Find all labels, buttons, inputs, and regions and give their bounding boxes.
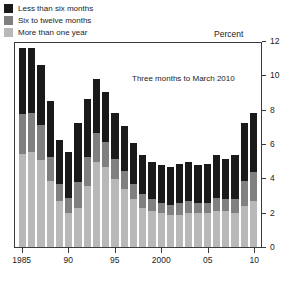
legend-label-six-to-twelve-months: Six to twelve months [18,16,91,25]
bar-segment [121,189,128,247]
bar-2009 [241,43,248,247]
x-tick-label: 10 [250,255,259,265]
bar-segment [102,167,109,247]
y-axis: 024681012 [262,42,300,248]
bar-1995 [111,43,118,247]
bar-segment [185,201,192,213]
bar-segment [84,186,91,247]
bar-1986 [28,43,35,247]
x-tick-mark [115,248,116,253]
bar-segment [111,159,118,179]
bar-segment [56,201,63,247]
x-tick-label: 2000 [152,255,171,265]
bar-segment [139,155,146,194]
bar-segment [204,213,211,247]
bar-1989 [56,43,63,247]
y-tick-mark [262,144,266,145]
chart-legend: Less than six months Six to twelve month… [4,3,174,39]
bar-segment [56,184,63,201]
bar-segment [231,213,238,247]
bar-segment [250,172,257,201]
bar-1993 [93,43,100,247]
bar-segment [84,157,91,186]
bar-1987 [37,43,44,247]
bar-segment [19,48,26,114]
x-tick-mark [68,248,69,253]
y-tick-label: 12 [270,36,279,47]
x-tick-label: 1985 [12,255,31,265]
bar-segment [213,211,220,247]
x-tick-label: 90 [63,255,72,265]
bar-segment [121,126,128,170]
bar-segment [111,113,118,159]
y-tick-label: 4 [270,173,275,184]
legend-swatch-more-than-one-year [4,28,13,37]
bar-segment [56,140,63,184]
y-tick-mark [262,247,266,248]
bar-segment [250,113,257,173]
bar-1988 [47,43,54,247]
y-tick-mark [262,41,266,42]
bar-segment [185,213,192,247]
bar-segment [176,164,183,203]
bar-2010 [250,43,257,247]
y-tick-label: 8 [270,105,275,116]
bar-segment [167,167,174,204]
legend-item-more-than-one-year: More than one year [4,27,174,38]
bar-segment [250,201,257,247]
bar-segment [185,162,192,201]
bar-1994 [102,43,109,247]
bar-segment [241,206,248,247]
x-tick-label: 05 [203,255,212,265]
bar-1992 [84,43,91,247]
y-tick-label: 0 [270,242,275,253]
bar-segment [47,101,54,157]
x-tick-mark [22,248,23,253]
bar-segment [111,179,118,247]
bar-1990 [65,43,72,247]
bar-segment [19,154,26,248]
legend-item-less-than-six-months: Less than six months [4,3,174,14]
y-axis-unit-label: Percent [214,29,243,39]
bar-segment [241,123,248,181]
bar-segment [139,194,146,208]
legend-swatch-six-to-twelve-months [4,16,13,25]
bar-segment [231,155,238,199]
y-tick-mark [262,110,266,111]
bar-segment [74,123,81,183]
y-tick-label: 2 [270,208,275,219]
bar-segment [130,184,137,199]
bar-1996 [121,43,128,247]
legend-label-less-than-six-months: Less than six months [18,4,93,13]
bar-segment [74,182,81,208]
bar-segment [93,133,100,162]
bar-segment [167,215,174,247]
bar-segment [47,181,54,247]
bar-segment [37,160,44,247]
bar-1991 [74,43,81,247]
bar-segment [148,162,155,199]
bar-segment [139,208,146,247]
x-tick-mark [254,248,255,253]
chart-figure: Less than six months Six to twelve month… [0,0,301,283]
bar-segment [65,198,72,213]
bar-segment [204,203,211,213]
bar-segment [19,114,26,153]
bar-segment [28,48,35,113]
bar-segment [65,213,72,247]
legend-swatch-less-than-six-months [4,4,13,13]
bar-segment [148,211,155,247]
bar-segment [194,165,201,202]
bar-segment [121,171,128,190]
bar-segment [47,157,54,181]
bar-segment [222,199,229,211]
bar-segment [213,198,220,212]
bar-segment [158,213,165,247]
legend-label-more-than-one-year: More than one year [18,28,87,37]
y-tick-mark [262,75,266,76]
bar-segment [222,159,229,200]
y-tick-label: 10 [270,70,279,81]
bar-segment [158,203,165,213]
bar-segment [241,181,248,207]
bar-segment [194,203,201,213]
